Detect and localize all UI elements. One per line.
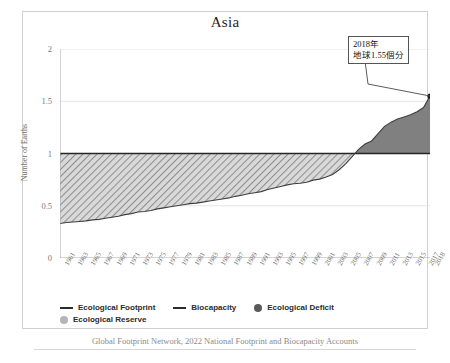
source-divider xyxy=(34,349,416,350)
legend-label: Biocapacity xyxy=(191,303,236,312)
source-caption: Global Footprint Network, 2022 National … xyxy=(0,336,450,346)
legend-item-ecological-reserve[interactable]: Ecological Reserve xyxy=(60,315,146,324)
chart-legend: Ecological Footprint Biocapacity Ecologi… xyxy=(60,303,400,327)
ecological-deficit-area xyxy=(355,96,430,153)
dot-marker-icon xyxy=(254,304,262,312)
legend-item-biocapacity[interactable]: Biocapacity xyxy=(173,303,236,312)
legend-item-ecological-deficit[interactable]: Ecological Deficit xyxy=(254,303,334,312)
y-tick-0-5: 0.5 xyxy=(26,201,52,211)
y-tick-0: 0 xyxy=(26,253,52,263)
y-tick-1: 1 xyxy=(26,149,52,159)
legend-item-ecological-footprint[interactable]: Ecological Footprint xyxy=(60,303,155,312)
annotation-line-2: 地球1.55個分 xyxy=(353,50,404,61)
legend-label: Ecological Reserve xyxy=(73,315,146,324)
y-tick-2: 2 xyxy=(26,44,52,54)
line-marker-icon xyxy=(173,307,186,309)
annotation-callout: 2018年 地球1.55個分 xyxy=(348,36,409,64)
legend-row-2: Ecological Reserve xyxy=(60,315,400,324)
chart-title: Asia xyxy=(0,14,450,31)
y-tick-1-5: 1.5 xyxy=(26,96,52,106)
chart-container: Asia Number of Earths 2 1.5 1 0.5 0 xyxy=(0,0,450,363)
legend-label: Ecological Footprint xyxy=(78,303,155,312)
legend-row-1: Ecological Footprint Biocapacity Ecologi… xyxy=(60,303,400,312)
chart-svg xyxy=(60,49,430,258)
plot-area: 1961196319651967196919711973197519771979… xyxy=(60,49,430,258)
line-marker-icon xyxy=(60,307,73,309)
legend-label: Ecological Deficit xyxy=(267,303,334,312)
ecological-reserve-area xyxy=(60,154,355,224)
annotation-line-1: 2018年 xyxy=(353,39,404,50)
dot-marker-icon xyxy=(60,316,68,324)
